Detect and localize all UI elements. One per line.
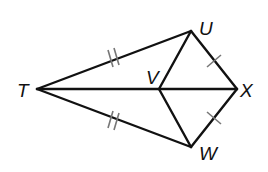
- segment-UV: [159, 31, 191, 89]
- segments: [37, 31, 237, 147]
- segment-VW: [159, 89, 191, 147]
- kite-diagram: T U V X W: [0, 0, 268, 172]
- tick-mark-TU-2: [114, 48, 119, 65]
- tick-mark-TW-2: [114, 113, 119, 130]
- label-X: X: [239, 80, 254, 101]
- point-labels: T U V X W: [17, 18, 254, 164]
- label-T: T: [17, 80, 30, 101]
- label-V: V: [146, 67, 161, 88]
- label-W: W: [199, 143, 219, 164]
- tick-mark-TW-1: [108, 111, 113, 128]
- segment-TW: [37, 89, 191, 147]
- segment-TU: [37, 31, 191, 89]
- tick-mark-TU-1: [108, 50, 113, 67]
- tick-mark-WX: [207, 112, 221, 124]
- label-U: U: [199, 18, 213, 39]
